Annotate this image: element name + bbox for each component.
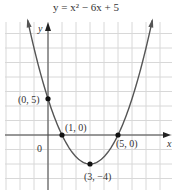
data-point [59, 132, 64, 137]
curve-arrow-icon [148, 18, 153, 27]
curve-arrow-icon [27, 18, 32, 27]
x-axis-label: x [166, 138, 172, 149]
origin-label: 0 [37, 143, 42, 154]
labeled-points: (0, 5)(1, 0)(5, 0)(3, −4) [18, 94, 138, 183]
y-axis-label: y [37, 23, 43, 34]
data-point [45, 96, 50, 101]
point-label: (5, 0) [116, 138, 138, 150]
data-point [115, 132, 120, 137]
data-point [87, 161, 92, 166]
parabola-plot: yx0 (0, 5)(1, 0)(5, 0)(3, −4) [0, 0, 172, 190]
point-label: (1, 0) [65, 122, 87, 134]
point-label: (0, 5) [18, 94, 40, 106]
point-label: (3, −4) [84, 171, 111, 183]
